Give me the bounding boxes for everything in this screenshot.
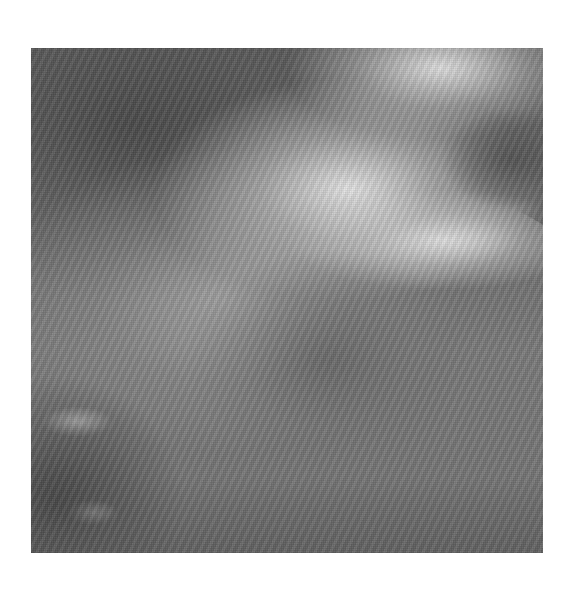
film-grain: [31, 48, 543, 553]
xray-image: grayscale radiograph of heel bone (calca…: [31, 48, 543, 553]
